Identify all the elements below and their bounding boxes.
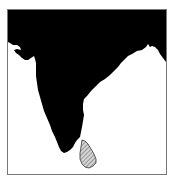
locator-map — [8, 10, 167, 175]
locator-map-frame — [7, 9, 167, 175]
india-landmass — [8, 10, 167, 153]
sri-lanka-highlight — [80, 140, 96, 168]
